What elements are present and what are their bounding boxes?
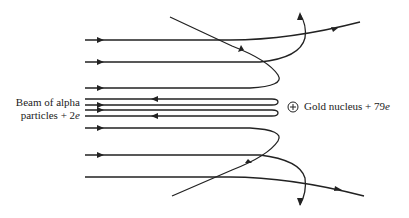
beam-label-line2-text: particles + 2 xyxy=(21,109,75,121)
trajectory-bottom-pass-through xyxy=(85,177,364,196)
trajectory-lower-backscatter xyxy=(85,125,279,196)
nucleus-label-charge-unit: e xyxy=(385,100,390,112)
trajectory-head-on-upper xyxy=(85,96,278,108)
arrow-right-icon xyxy=(97,59,104,65)
arrow-right-icon xyxy=(97,37,104,43)
arrow-right-icon xyxy=(97,125,104,131)
beam-label-line2: particles + 2e xyxy=(4,109,80,122)
arrow-right-icon xyxy=(97,152,104,158)
trajectory-top-pass-through xyxy=(85,22,360,43)
trajectory-head-on-lower xyxy=(85,107,278,119)
arrow-right-icon xyxy=(97,102,104,108)
nucleus-label: Gold nucleus + 79e xyxy=(304,100,390,113)
beam-label: Beam of alpha particles + 2e xyxy=(4,96,80,122)
arrow-left-icon xyxy=(151,113,158,119)
gold-nucleus-icon xyxy=(288,102,298,112)
arrow-up-icon xyxy=(297,12,303,20)
arrow-right-icon xyxy=(97,107,104,113)
beam-label-line1: Beam of alpha xyxy=(4,96,80,109)
nucleus-label-text: Gold nucleus + 79 xyxy=(304,100,385,112)
arrow-right-icon xyxy=(97,85,104,91)
arrow-left-icon xyxy=(151,96,158,102)
beam-label-charge-unit: e xyxy=(75,109,80,121)
trajectory-upper-backscatter xyxy=(85,17,279,91)
